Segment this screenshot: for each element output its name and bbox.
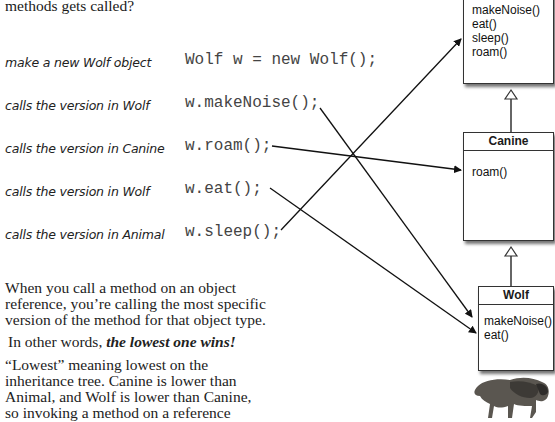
inheritance-canine-to-animal bbox=[505, 90, 517, 132]
arrow-make-noise-to-wolf bbox=[320, 108, 472, 317]
inheritance-wolf-to-canine bbox=[505, 247, 517, 286]
arrow-roam-to-canine bbox=[272, 146, 461, 170]
arrow-sleep-to-animal bbox=[281, 39, 461, 230]
arrow-eat-to-wolf bbox=[270, 188, 476, 333]
wolf-photo bbox=[470, 372, 555, 420]
